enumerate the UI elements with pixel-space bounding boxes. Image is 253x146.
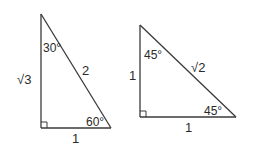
t1-vertical-side-label: √3 [17,72,31,87]
t1-hypotenuse [41,14,111,128]
t2-right-angle-mark [140,111,146,117]
triangle-45-45-90: 45° 45° 1 √2 1 [129,25,236,135]
t1-hypotenuse-label: 2 [82,63,89,78]
t2-hypotenuse-label: √2 [191,60,205,75]
t2-base-label: 1 [185,120,192,135]
t1-top-angle-label: 30° [43,41,61,55]
t2-bottom-right-angle-label: 45° [204,104,222,118]
t1-base-label: 1 [72,131,79,146]
triangle-30-60-90: 30° 60° √3 2 1 [17,14,111,146]
special-right-triangles-diagram: 30° 60° √3 2 1 45° 45° 1 √2 1 [0,0,253,146]
t1-bottom-right-angle-label: 60° [86,115,104,129]
t2-vertical-side-label: 1 [129,68,136,83]
t1-right-angle-mark [41,122,47,128]
t2-top-angle-label: 45° [144,48,162,62]
